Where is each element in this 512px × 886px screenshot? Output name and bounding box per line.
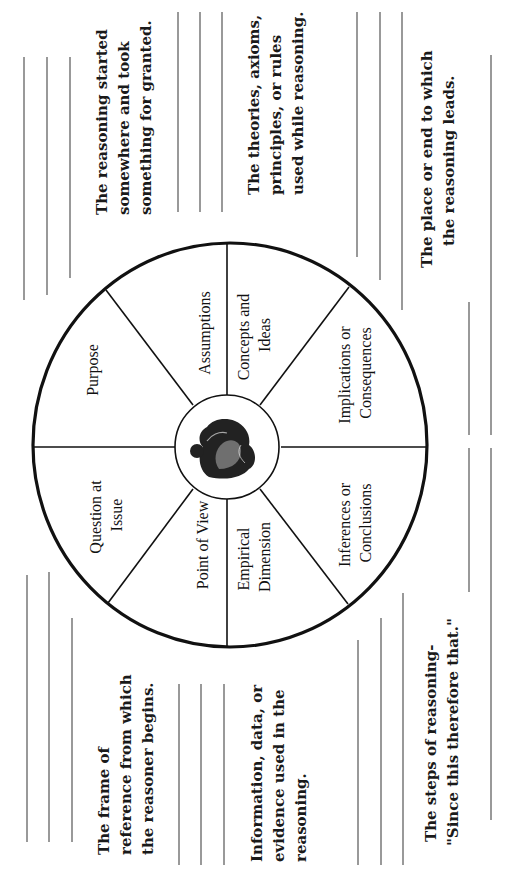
label-assumptions: Assumptions: [196, 291, 214, 375]
label-question-at-issue: Question at Issue: [87, 476, 125, 553]
spoke-lower-right: [260, 489, 348, 604]
writing-lines-left: [24, 57, 72, 842]
label-point-of-view: Point of View: [194, 500, 211, 589]
label-inferences-or-conclusions: Inferences or Conclusions: [336, 479, 374, 567]
description-implications: The place or end to which the reasoning …: [418, 45, 458, 268]
description-point-of-view: The frame of reference from which the re…: [95, 669, 157, 855]
label-concepts-and-ideas: Concepts and Ideas: [235, 290, 273, 381]
reasoning-wheel-diagram: Purpose Question at Issue Assumptions Co…: [0, 0, 512, 886]
description-inferences: The steps of reasoning- "Since this ther…: [422, 618, 462, 846]
description-concepts: The theories, axioms, principles, or rul…: [245, 10, 307, 195]
description-assumptions: The reasoning started somewhere and took…: [93, 20, 155, 215]
spoke-upper-left: [106, 290, 193, 405]
label-empirical-dimension: Empirical Dimension: [235, 522, 273, 592]
label-implications-or-consequences: Implications or Consequences: [336, 322, 375, 423]
description-empirical: Information, data, or evidence used in t…: [248, 680, 310, 862]
label-purpose: Purpose: [84, 344, 102, 396]
